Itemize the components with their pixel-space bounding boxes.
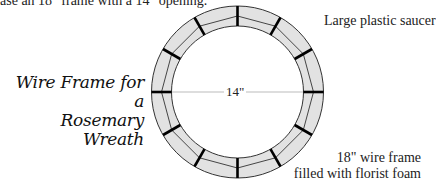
- saucer-label: Large plastic saucer: [324, 13, 436, 29]
- inner-diameter-label: 14": [224, 84, 246, 100]
- frame-label-line-2: filled with florist foam: [294, 166, 421, 182]
- frame-label: 18" wire frame filled with florist foam: [294, 150, 421, 182]
- frame-label-line-1: 18" wire frame: [294, 150, 421, 166]
